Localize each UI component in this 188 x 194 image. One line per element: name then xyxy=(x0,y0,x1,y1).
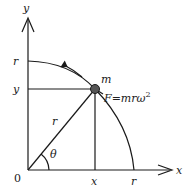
circular-motion-diagram: y x 0 r y x r r θ m F=mrω2 xyxy=(0,0,188,194)
force-formula: F=mrω2 xyxy=(103,90,151,105)
y-axis-y-label: y xyxy=(12,83,20,96)
radius-line xyxy=(28,89,95,170)
circular-path-arc xyxy=(28,61,134,170)
force-symbol: F xyxy=(103,92,112,105)
radius-label: r xyxy=(52,115,58,128)
angle-arc xyxy=(41,154,49,170)
y-axis-label: y xyxy=(22,2,30,15)
mass-point xyxy=(91,85,100,94)
velocity-arrowhead-icon xyxy=(60,60,69,70)
force-equals: = xyxy=(112,92,121,105)
origin-label: 0 xyxy=(14,172,21,185)
force-expression: mrω xyxy=(121,92,146,105)
mass-label: m xyxy=(101,73,111,86)
x-axis-label: x xyxy=(176,164,183,177)
x-axis-r-label: r xyxy=(131,175,137,188)
angle-label: θ xyxy=(50,148,57,161)
x-axis-x-label: x xyxy=(91,175,98,188)
y-axis-r-label: r xyxy=(13,55,19,68)
force-exponent: 2 xyxy=(146,90,151,99)
